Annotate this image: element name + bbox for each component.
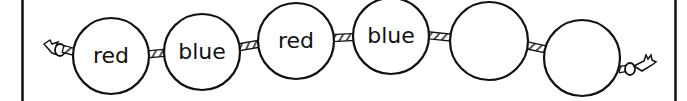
bead-5-blank xyxy=(450,2,528,80)
bead-2: blue xyxy=(164,14,240,90)
bead-label: red xyxy=(93,43,129,68)
bead-3: red xyxy=(258,3,334,79)
left-rope-knot-icon xyxy=(44,40,76,56)
bead-4: blue xyxy=(353,0,429,74)
bead-1: red xyxy=(73,18,149,94)
right-rope-knot-icon xyxy=(619,55,656,75)
bead-6-blank xyxy=(544,20,620,96)
bead-label: red xyxy=(278,28,314,53)
bead-string-diagram: red blue red blue xyxy=(0,0,687,101)
bead-label: blue xyxy=(367,23,415,48)
bead-label: blue xyxy=(178,39,226,64)
